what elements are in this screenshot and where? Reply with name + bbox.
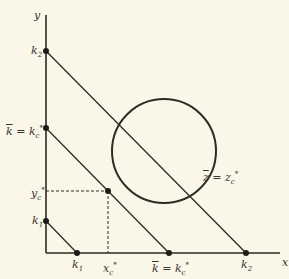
label-kbar-eq-kc-y: k = kc* bbox=[6, 122, 43, 142]
point-kc-x bbox=[166, 250, 172, 256]
diagram-canvas bbox=[0, 0, 289, 279]
label-kbar-eq-kc-x: k = kc* bbox=[152, 259, 189, 279]
y-axis-label: y bbox=[34, 10, 40, 22]
x-axis-label: x bbox=[282, 257, 288, 269]
label-k2-x: k2 bbox=[241, 259, 252, 275]
label-k1-x: k1 bbox=[72, 259, 83, 275]
label-xc-star: xc* bbox=[103, 259, 117, 279]
point-kc-y bbox=[43, 125, 49, 131]
label-zbar-eq-zc: z = zc* bbox=[203, 168, 238, 188]
label-k1-y: k1 bbox=[32, 215, 43, 231]
label-yc-star: yc* bbox=[31, 184, 45, 204]
iso-z-circle bbox=[112, 99, 216, 203]
tangent-point bbox=[105, 188, 111, 194]
budget-line-k1 bbox=[46, 221, 77, 253]
point-k1-x bbox=[74, 250, 80, 256]
point-k2-x bbox=[243, 250, 249, 256]
point-k1-y bbox=[43, 218, 49, 224]
label-k2-y: k2 bbox=[31, 45, 42, 61]
point-k2-y bbox=[43, 48, 49, 54]
